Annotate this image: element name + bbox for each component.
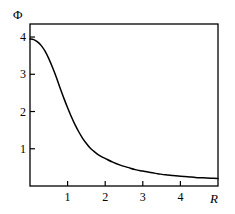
y-tick-label: 2 [14, 106, 26, 118]
y-tick-label: 4 [14, 31, 26, 43]
x-tick-label: 1 [62, 191, 74, 203]
y-axis-ticks [30, 37, 35, 149]
x-axis-ticks [68, 181, 181, 186]
x-tick-label: 2 [99, 191, 111, 203]
y-tick-label: 1 [14, 143, 26, 155]
data-curve-phi [30, 39, 218, 179]
x-tick-label: 3 [137, 191, 149, 203]
plot-area [0, 0, 235, 214]
plot-frame-box [30, 24, 218, 186]
x-axis-label: R [210, 192, 218, 205]
y-tick-label: 3 [14, 68, 26, 80]
axis-frame [30, 24, 218, 186]
figure-chart-phi-vs-r: Φ R 1234 1234 [0, 0, 235, 214]
y-axis-label: Φ [13, 8, 23, 21]
x-tick-label: 4 [174, 191, 186, 203]
